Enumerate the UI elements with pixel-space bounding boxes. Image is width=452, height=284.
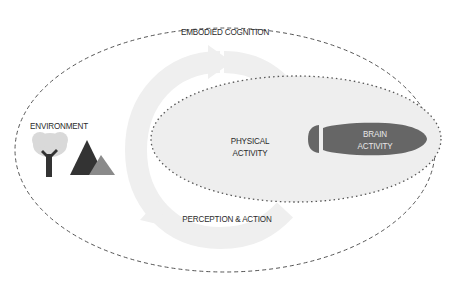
environment-label: ENVIRONMENT — [28, 120, 91, 132]
brain-label-line2: ACTIVITY — [344, 140, 407, 152]
brain-label-line1: BRAIN — [344, 128, 407, 140]
physical-label-line1: PHYSICAL — [214, 135, 286, 147]
physical-activity-label: PHYSICAL ACTIVITY — [210, 135, 290, 159]
physical-label-line2: ACTIVITY — [214, 147, 286, 159]
tree-icon — [32, 132, 68, 177]
mountains-icon — [70, 140, 115, 175]
perception-action-label: PERCEPTION & ACTION — [178, 213, 277, 225]
brain-activity-label: BRAIN ACTIVITY — [340, 128, 410, 152]
embodied-cognition-label: EMBODIED COGNITION — [176, 26, 275, 38]
